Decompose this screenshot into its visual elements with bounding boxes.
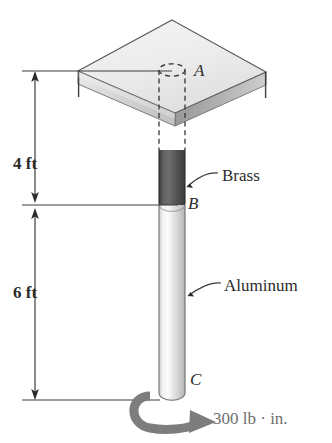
- brass-leader-line: [187, 173, 218, 187]
- dimension-label-6ft: 6 ft: [13, 284, 37, 301]
- torque-magnitude-label: 300 lb · in.: [213, 410, 288, 427]
- brass-segment: [159, 150, 185, 209]
- brass-cylinder-body: [159, 150, 185, 209]
- point-label-a: A: [194, 62, 204, 79]
- point-label-b: B: [188, 195, 198, 212]
- point-label-c: C: [190, 371, 201, 388]
- plate-top-face: [78, 20, 266, 113]
- dimension-6ft-line: [31, 208, 39, 400]
- material-label-brass: Brass: [222, 167, 260, 184]
- aluminum-leader-line: [188, 283, 221, 296]
- aluminum-segment: [159, 205, 185, 400]
- torque-arrow: [134, 396, 216, 433]
- dimension-label-4ft: 4 ft: [13, 155, 37, 172]
- torque-arrowhead: [189, 410, 216, 433]
- material-label-aluminum: Aluminum: [224, 277, 298, 294]
- dimension-4ft-line: [31, 71, 39, 203]
- support-plate: [78, 20, 266, 126]
- diagram-svg: [0, 0, 332, 443]
- aluminum-cylinder-body: [159, 205, 185, 400]
- figure-canvas: A B C Brass Aluminum 4 ft 6 ft 300 lb · …: [0, 0, 332, 443]
